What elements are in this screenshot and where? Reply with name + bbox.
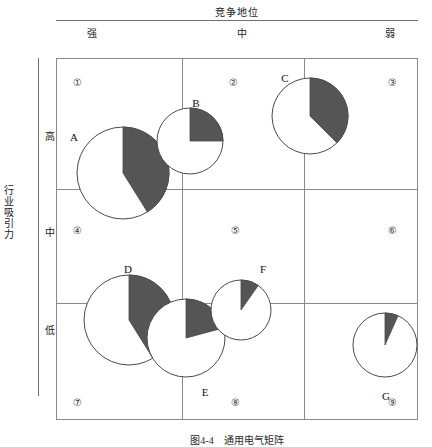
cell-number-2: ② [229, 77, 238, 88]
row-header-low: 低 [44, 322, 56, 337]
pie-label-d: D [124, 263, 132, 275]
row-header-high: 高 [44, 128, 56, 143]
pie-label-e: E [202, 386, 209, 398]
grid-vline-2 [304, 59, 305, 419]
pie-label-b: B [192, 97, 199, 109]
column-axis-title: 竞争地位 [56, 4, 418, 19]
cell-number-1: ① [73, 77, 82, 88]
header-rule [56, 20, 418, 21]
grid-hline-1 [57, 189, 417, 190]
column-header-strong: 强 [62, 25, 122, 40]
pie-label-c: C [281, 72, 288, 84]
cell-number-8: ⑧ [231, 397, 240, 408]
pie-label-f: F [260, 263, 266, 275]
matrix-grid: ① ② ③ ④ ⑤ ⑥ ⑦ ⑧ ⑨ [56, 58, 418, 420]
grid-vline-1 [182, 59, 183, 419]
row-axis-title: 行业吸引力 [2, 185, 12, 240]
cell-number-3: ③ [388, 77, 397, 88]
figure-caption: 图4-4 通用电气矩阵 [56, 432, 418, 447]
pie-label-a: A [70, 131, 78, 143]
cell-number-4: ④ [73, 225, 82, 236]
cell-number-5: ⑤ [231, 225, 240, 236]
cell-number-6: ⑥ [388, 225, 397, 236]
column-header-medium: 中 [212, 25, 272, 40]
cell-number-7: ⑦ [73, 397, 82, 408]
grid-hline-2 [57, 303, 417, 304]
pie-label-g: G [382, 390, 390, 402]
column-header-weak: 弱 [360, 25, 420, 40]
row-header-medium: 中 [44, 224, 56, 239]
row-axis-rule [38, 58, 39, 396]
